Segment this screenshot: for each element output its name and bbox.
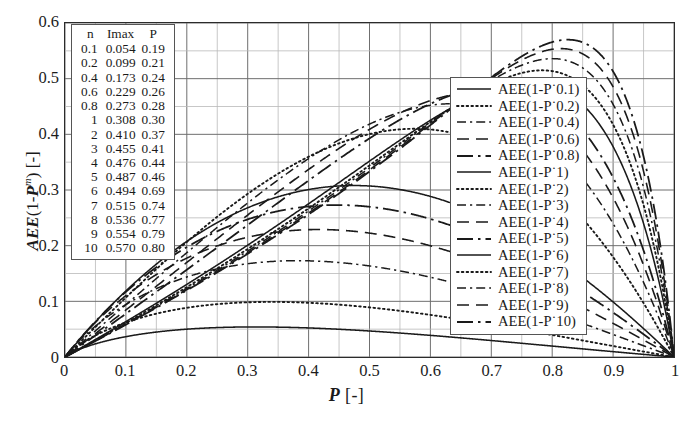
table-cell: 0.455: [103, 142, 139, 156]
table-cell: 0.77: [139, 213, 168, 227]
x-tick-0.8: 0.8: [542, 361, 563, 381]
x-axis-title: P [-]: [0, 385, 693, 406]
legend-label: AEE(1-P˙0.8): [498, 148, 579, 163]
legend-item: AEE(1-P˙7): [456, 264, 579, 281]
table-header-n: n: [78, 27, 103, 42]
table-row: 40.4760.44: [78, 156, 168, 170]
legend-item: AEE(1-P˙0.8): [456, 147, 579, 164]
table-cell: 9: [78, 227, 103, 241]
table-row: 70.5150.74: [78, 199, 168, 213]
table-cell: 0.2: [78, 56, 103, 70]
legend-label: AEE(1-P˙6): [498, 248, 569, 263]
table-header-row: nImaxP: [78, 27, 168, 42]
table-cell: 0.476: [103, 156, 139, 170]
legend-line-sample: [456, 165, 492, 179]
table-cell: 0.570: [103, 241, 139, 255]
legend-line-sample: [456, 248, 492, 262]
legend-label: AEE(1-P˙4): [498, 215, 569, 230]
legend-line-sample: [456, 82, 492, 96]
table-cell: 0.46: [139, 170, 168, 184]
table-cell: 0.1: [78, 42, 103, 56]
x-tick-1: 1: [671, 361, 679, 381]
table-row: 30.4550.41: [78, 142, 168, 156]
legend-label: AEE(1-P˙2): [498, 182, 569, 197]
table-row: 100.5700.80: [78, 241, 168, 255]
legend-line-sample: [456, 281, 492, 295]
table-row: 80.5360.77: [78, 213, 168, 227]
y-tick-0: 0: [51, 348, 59, 368]
legend-item: AEE(1-P˙8): [456, 280, 579, 297]
x-tick-0.3: 0.3: [237, 361, 258, 381]
legend-label: AEE(1-P˙10): [498, 314, 576, 329]
table-cell: 0.44: [139, 156, 168, 170]
legend-item: AEE(1-P˙10): [456, 313, 579, 330]
legend-label: AEE(1-P˙1): [498, 165, 569, 180]
x-tick-0.4: 0.4: [298, 361, 319, 381]
table-cell: 0.308: [103, 113, 139, 127]
table-cell: 0.24: [139, 71, 168, 85]
legend-label: AEE(1-P˙7): [498, 265, 569, 280]
table-cell: 0.6: [78, 85, 103, 99]
table-cell: 0.099: [103, 56, 139, 70]
legend-item: AEE(1-P˙1): [456, 164, 579, 181]
legend-line-sample: [456, 132, 492, 146]
table-cell: 6: [78, 184, 103, 198]
legend-item: AEE(1-P˙2): [456, 181, 579, 198]
table-cell: 0.4: [78, 71, 103, 85]
table-row: 0.60.2290.26: [78, 85, 168, 99]
x-tick-0.7: 0.7: [481, 361, 502, 381]
table-cell: 0.37: [139, 128, 168, 142]
figure-container: 00.10.20.30.40.50.60.70.80.91 00.10.20.3…: [0, 0, 693, 431]
table-row: 10.3080.30: [78, 113, 168, 127]
table-cell: 0.487: [103, 170, 139, 184]
x-tick-0.1: 0.1: [115, 361, 136, 381]
table-cell: 0.536: [103, 213, 139, 227]
legend-label: AEE(1-P˙5): [498, 231, 569, 246]
table-cell: 0.28: [139, 99, 168, 113]
legend-line-sample: [456, 298, 492, 312]
x-axis-symbol: P: [329, 385, 340, 405]
y-axis-open: (1-: [23, 197, 42, 217]
legend-label: AEE(1-P˙0.1): [498, 82, 579, 97]
table-row: 0.80.2730.28: [78, 99, 168, 113]
y-axis-prefix: AEE: [23, 216, 42, 250]
table-cell: 8: [78, 213, 103, 227]
table-cell: 1: [78, 113, 103, 127]
legend-item: AEE(1-P˙0.2): [456, 98, 579, 115]
table-row: 0.40.1730.24: [78, 71, 168, 85]
table-row: 90.5540.79: [78, 227, 168, 241]
legend-label: AEE(1-P˙0.4): [498, 115, 579, 130]
y-axis-title: AEE(1-Pm) [-]: [21, 81, 43, 321]
x-tick-0.2: 0.2: [176, 361, 197, 381]
table-cell: 0.554: [103, 227, 139, 241]
table-cell: 0.229: [103, 85, 139, 99]
legend-line-sample: [456, 198, 492, 212]
table-cell: 0.80: [139, 241, 168, 255]
data-summary-table: nImaxP 0.10.0540.190.20.0990.210.40.1730…: [71, 24, 175, 260]
table-cell: 0.515: [103, 199, 139, 213]
y-axis-close: ): [23, 173, 42, 179]
figure-caption: [0, 414, 693, 431]
y-axis-unit: [-]: [23, 151, 42, 168]
table-cell: 0.69: [139, 184, 168, 198]
legend-item: AEE(1-P˙0.6): [456, 131, 579, 148]
legend-item: AEE(1-P˙5): [456, 230, 579, 247]
table-cell: 0.8: [78, 99, 103, 113]
table-cell: 0.26: [139, 85, 168, 99]
table: nImaxP 0.10.0540.190.20.0990.210.40.1730…: [78, 27, 168, 256]
x-tick-0.6: 0.6: [420, 361, 441, 381]
table-cell: 2: [78, 128, 103, 142]
x-tick-0.5: 0.5: [359, 361, 380, 381]
table-cell: 7: [78, 199, 103, 213]
legend-label: AEE(1-P˙3): [498, 198, 569, 213]
table-cell: 0.79: [139, 227, 168, 241]
table-header-P: P: [139, 27, 168, 42]
table-cell: 5: [78, 170, 103, 184]
legend-label: AEE(1-P˙9): [498, 298, 569, 313]
table-row: 60.4940.69: [78, 184, 168, 198]
legend: AEE(1-P˙0.1)AEE(1-P˙0.2)AEE(1-P˙0.4)AEE(…: [450, 77, 587, 335]
legend-line-sample: [456, 115, 492, 129]
table-cell: 0.41: [139, 142, 168, 156]
table-row: 0.20.0990.21: [78, 56, 168, 70]
table-cell: 4: [78, 156, 103, 170]
